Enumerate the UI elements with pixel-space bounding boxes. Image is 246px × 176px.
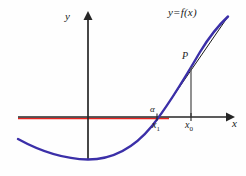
y-axis-arrowhead [84, 11, 93, 20]
x1-label: x1 [152, 120, 160, 133]
y-axis-label: y [65, 11, 70, 22]
figure-canvas [0, 0, 246, 176]
x0-label-subscript: 0 [189, 125, 193, 133]
function-equation-label: y=f(x) [168, 7, 197, 18]
angle-alpha-label: α [150, 105, 155, 114]
point-p-label: P [182, 51, 188, 61]
function-curve [18, 17, 228, 160]
x1-label-subscript: 1 [156, 125, 160, 133]
math-figure-newton-method: y=f(x) y x P α x1 x0 [0, 0, 246, 176]
x0-label: x0 [185, 120, 193, 133]
x-axis-label: x [232, 118, 237, 129]
